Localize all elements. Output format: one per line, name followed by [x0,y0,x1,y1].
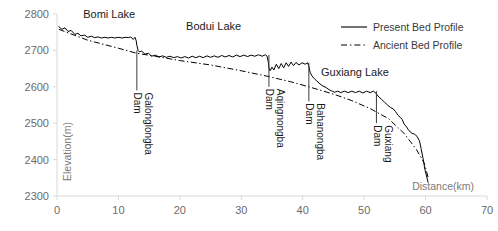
legend-item-label: Ancient Bed Profile [373,39,462,51]
y-tick-label: 2700 [25,44,49,56]
y-axis-ticks: 230024002500260027002800 [25,8,57,202]
dam-suffix-label: Dam [264,89,275,110]
x-axis-title: Distance(km) [412,180,474,192]
dam-name-label: Bahanongba [315,103,326,160]
lake-label: Guxiang Lake [321,66,389,78]
chart-legend: Present Bed ProfileAncient Bed Profile [341,21,464,51]
y-tick-label: 2400 [25,154,49,166]
dam-name-label: Guxiang [383,125,394,162]
chart-canvas: 230024002500260027002800 010203040506070… [0,0,498,231]
x-tick-label: 10 [112,204,124,216]
y-tick-label: 2500 [25,117,49,129]
x-tick-label: 50 [358,204,370,216]
lake-annotations: Bomi LakeBodui LakeGuxiang Lake [83,8,389,78]
y-tick-label: 2600 [25,81,49,93]
x-tick-label: 30 [235,204,247,216]
lake-label: Bodui Lake [186,20,241,32]
x-tick-label: 60 [419,204,431,216]
x-tick-label: 0 [54,204,60,216]
dam-suffix-label: Dam [372,125,383,146]
dam-name-label: Galonglongba [143,92,154,155]
lake-label: Bomi Lake [83,8,135,20]
dam-name-label: Aqingnongba [275,89,286,148]
y-tick-label: 2800 [25,8,49,20]
x-tick-label: 20 [174,204,186,216]
y-tick-label: 2300 [25,190,49,202]
x-tick-label: 40 [297,204,309,216]
dam-suffix-label: Dam [132,92,143,113]
x-tick-label: 70 [481,204,493,216]
x-axis-ticks: 010203040506070 [54,196,493,216]
bed-profile-chart: 230024002500260027002800 010203040506070… [0,0,498,231]
dam-suffix-label: Dam [304,103,315,124]
legend-item-label: Present Bed Profile [373,21,464,33]
ancient-bed-profile-line [59,29,428,177]
y-axis-title: Elevation(m) [61,122,73,181]
